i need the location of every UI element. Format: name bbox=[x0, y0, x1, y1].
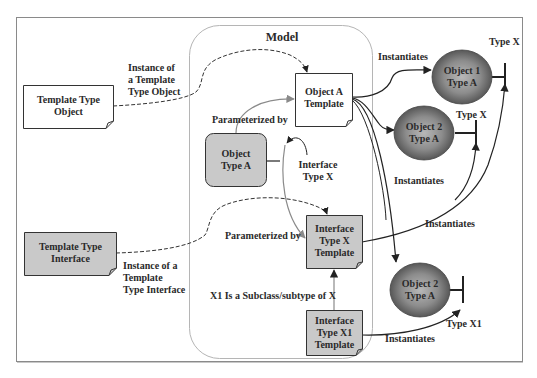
object1-type-a-label: Object 1 Type A bbox=[432, 62, 492, 92]
object-type-a-label: Object Type A bbox=[205, 133, 267, 187]
instance-of-template-type-interface-label: Instance of a Template Type Interface bbox=[123, 260, 185, 296]
x1-subclass-label: X1 Is a Subclass/subtype of X bbox=[210, 290, 336, 302]
model-title: Model bbox=[252, 31, 312, 43]
type-x-label-2: Type X bbox=[456, 109, 487, 121]
interface-type-x-label: Interface Type X bbox=[288, 159, 348, 183]
template-type-object-label: Template Type Object bbox=[23, 85, 114, 127]
interface-type-x-template-label: Interface Type X Template bbox=[306, 215, 363, 267]
instantiates-middle-label: Instantiates bbox=[394, 175, 444, 187]
interface-type-x1-template-label: Interface Type X1 Template bbox=[306, 310, 363, 355]
parameterized-by-bottom-label: Parameterized by bbox=[225, 230, 301, 242]
type-x1-label: Type X1 bbox=[446, 318, 482, 330]
parameterized-by-top-label: Parameterized by bbox=[212, 114, 288, 126]
type-x-label-1: Type X bbox=[489, 36, 520, 48]
instantiates-bottom-label: Instantiates bbox=[385, 333, 435, 345]
object-a-template-label: Object A Template bbox=[295, 73, 353, 123]
instance-of-template-type-object-label: Instance of a Template Type Object bbox=[128, 62, 180, 98]
instantiates-right-label: Instantiates bbox=[425, 218, 475, 230]
object2-upper-type-a-label: Object 2 Type A bbox=[394, 118, 454, 148]
template-type-interface-label: Template Type Interface bbox=[24, 232, 117, 274]
object2-lower-type-a-label: Object 2 Type A bbox=[390, 275, 450, 305]
instantiates-top-label: Instantiates bbox=[378, 51, 428, 63]
